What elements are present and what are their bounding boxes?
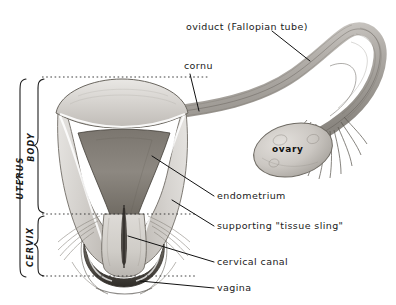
label-vagina: vagina xyxy=(217,283,251,293)
label-cornu: cornu xyxy=(184,61,213,71)
label-ovary: ovary xyxy=(272,145,303,154)
label-cervix-bracket: CERVIX xyxy=(27,216,35,278)
label-uterus-bracket: UTERUS xyxy=(17,143,25,213)
label-cervical-canal: cervical canal xyxy=(217,257,288,267)
label-endometrium: endometrium xyxy=(217,191,286,201)
label-body-bracket: BODY xyxy=(28,119,36,175)
cervix-body xyxy=(102,205,147,277)
oviduct-tube xyxy=(168,25,381,142)
label-oviduct: oviduct (Fallopian tube) xyxy=(186,22,308,32)
anatomy-drawing xyxy=(0,0,396,305)
label-tissue-sling: supporting "tissue sling" xyxy=(217,221,343,231)
cervix-bracket xyxy=(34,216,44,276)
anatomical-figure: oviduct (Fallopian tube) cornu ovary end… xyxy=(0,0,396,305)
tissue-sling-leader-line xyxy=(172,200,214,226)
oviduct-leader-line xyxy=(272,31,310,61)
